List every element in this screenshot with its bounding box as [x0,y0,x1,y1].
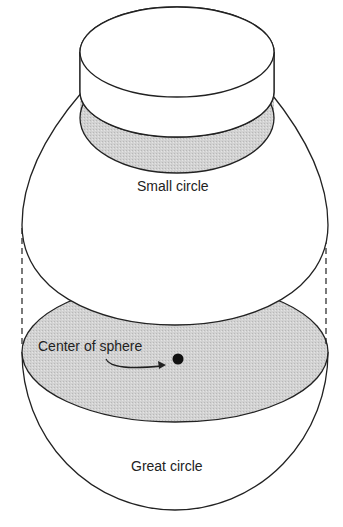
sphere-circles-diagram: Small circle Center of sphere Great circ… [0,0,343,527]
center-of-sphere-label: Center of sphere [38,338,142,354]
diagram-graphic [0,0,343,527]
top-cap [80,7,274,137]
center-point [173,354,184,365]
small-circle-label: Small circle [137,178,209,194]
great-circle-label: Great circle [131,458,203,474]
